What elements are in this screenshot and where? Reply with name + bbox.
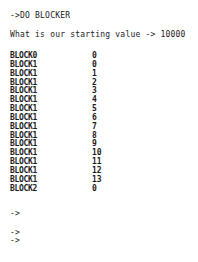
block-name: BLOCK1 [10,69,37,78]
terminal-screen[interactable]: ->DO BLOCKER What is our starting value … [0,0,198,262]
block-value: 8 [92,131,97,140]
block-name: BLOCK1 [10,131,37,140]
block-value: 4 [92,95,97,104]
block-name: BLOCK1 [10,122,37,131]
block-name: BLOCK1 [10,104,37,113]
block-name: BLOCK1 [10,86,37,95]
block-name: BLOCK0 [10,51,37,60]
question-line: What is our starting value -> 10000 [10,30,186,39]
block-name: BLOCK1 [10,60,37,69]
block-name: BLOCK1 [10,157,37,166]
block-name: BLOCK1 [10,113,37,122]
block-value: 9 [92,139,97,148]
block-value: 3 [92,86,97,95]
block-value: 0 [92,51,97,60]
block-value: 0 [92,60,97,69]
block-value: 5 [92,104,97,113]
block-value: 6 [92,113,97,122]
block-name: BLOCK1 [10,78,37,87]
prompt: -> [10,209,20,218]
command-line: ->DO BLOCKER [10,11,70,20]
block-value: 7 [92,122,97,131]
block-name: BLOCK1 [10,148,37,157]
block-name: BLOCK2 [10,184,37,193]
block-value: 12 [92,166,102,175]
block-value: 10 [92,148,102,157]
block-value: 11 [92,157,102,166]
block-value: 0 [92,184,97,193]
block-name: BLOCK1 [10,95,37,104]
active-prompt[interactable]: -> [10,236,20,245]
block-value: 2 [92,78,97,87]
block-name: BLOCK1 [10,139,37,148]
block-value: 13 [92,175,102,184]
block-name: BLOCK1 [10,166,37,175]
block-name: BLOCK1 [10,175,37,184]
block-value: 1 [92,69,97,78]
